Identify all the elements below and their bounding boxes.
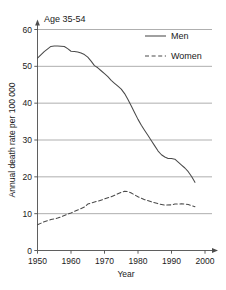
series-group [38,46,195,225]
legend-label-women: Women [171,51,202,61]
panel-title: Age 35-54 [44,14,86,24]
x-axis-arrow-icon [212,248,218,253]
y-tick-group: 0102030405060 [23,25,38,256]
chart-container: 0102030405060 195019601970198019902000 A… [0,0,226,290]
y-tick-label-50: 50 [23,61,33,71]
x-tick-label-2000: 2000 [196,256,215,266]
legend-label-men: Men [171,31,189,41]
y-tick-label-0: 0 [27,246,32,256]
x-axis-title: Year [117,269,134,279]
y-tick-label-40: 40 [23,98,33,108]
y-axis-arrow-icon [35,20,40,26]
x-tick-label-1980: 1980 [129,256,148,266]
y-tick-label-60: 60 [23,25,33,35]
x-tick-label-1950: 1950 [28,256,47,266]
x-tick-label-1970: 1970 [95,256,114,266]
y-tick-label-20: 20 [23,172,33,182]
line-chart: 0102030405060 195019601970198019902000 A… [0,0,226,290]
legend: MenWomen [145,31,202,61]
y-tick-label-30: 30 [23,135,33,145]
x-tick-label-1960: 1960 [62,256,81,266]
y-tick-label-10: 10 [23,209,33,219]
y-axis-title: Annual death rate per 100 000 [7,82,17,197]
x-tick-group: 195019601970198019902000 [28,251,215,266]
series-line-women [38,191,195,225]
x-tick-label-1990: 1990 [162,256,181,266]
